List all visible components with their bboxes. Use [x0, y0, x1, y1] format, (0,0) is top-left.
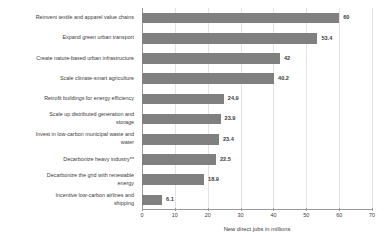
bar-row: 18.9: [142, 174, 372, 185]
x-tick-mark: [208, 208, 209, 211]
bar: [142, 53, 280, 64]
category-axis-labels: Reinvent textile and apparel value chain…: [0, 8, 138, 210]
gridline: [372, 8, 373, 210]
category-label: Decarbonize heavy industry**: [0, 149, 134, 169]
plot-area: 60 53.4 42 40.2 24.9 23.9: [142, 8, 372, 210]
bar-chart: Reinvent textile and apparel value chain…: [0, 0, 385, 242]
bar-row: 23.4: [142, 134, 372, 145]
bar-value-label: 23.4: [223, 137, 234, 143]
bar-row: 42: [142, 53, 372, 64]
bar: [142, 13, 339, 24]
category-label-text: Create nature-based urban infrastructure: [0, 55, 134, 63]
bar: [142, 114, 221, 125]
category-label-text: Decarbonize the grid with renewable ener…: [0, 172, 134, 188]
x-tick-label: 0: [141, 212, 144, 218]
x-tick-mark: [306, 208, 307, 211]
bar-row: 60: [142, 13, 372, 24]
x-tick-label: 60: [336, 212, 342, 218]
bar: [142, 94, 224, 105]
bar-row: 6.1: [142, 195, 372, 206]
bar-value-label: 22.5: [220, 157, 231, 163]
x-tick-mark: [273, 208, 274, 211]
bar-row: 22.5: [142, 154, 372, 165]
bar: [142, 174, 204, 185]
x-tick-label: 70: [369, 212, 375, 218]
bar-row: 40.2: [142, 73, 372, 84]
category-label: Expand green urban transport: [0, 28, 134, 48]
bar: [142, 33, 317, 44]
bar-value-label: 60: [343, 15, 349, 21]
bar-value-label: 6.1: [166, 197, 174, 203]
category-label: Retrofit buildings for energy efficiency: [0, 89, 134, 109]
bar: [142, 154, 216, 165]
category-label-text: Invest in low-carbon municipal waste and…: [0, 131, 134, 147]
category-label-text: Expand green urban transport: [0, 34, 134, 42]
x-tick-mark: [241, 208, 242, 211]
bar-value-label: 18.9: [208, 177, 219, 183]
category-label-text: Scale climate-smart agriculture: [0, 75, 134, 83]
bars-container: 60 53.4 42 40.2 24.9 23.9: [142, 8, 372, 210]
category-label-text: Retrofit buildings for energy efficiency: [0, 95, 134, 103]
category-label-text: Incentive low-carbon airlines and shippi…: [0, 192, 134, 208]
x-tick-label: 50: [303, 212, 309, 218]
bar-value-label: 24.9: [228, 96, 239, 102]
bar-value-label: 42: [284, 56, 290, 62]
bar-value-label: 53.4: [321, 36, 332, 42]
bar: [142, 134, 219, 145]
x-axis-title: New direct jobs in millions: [142, 226, 372, 232]
bar-value-label: 23.9: [225, 116, 236, 122]
bar-row: 24.9: [142, 94, 372, 105]
category-label: Invest in low-carbon municipal waste and…: [0, 129, 134, 149]
x-axis-ticks: 010203040506070: [142, 212, 372, 224]
category-label: Scale up distributed generation and stor…: [0, 109, 134, 129]
category-label: Decarbonize the grid with renewable ener…: [0, 170, 134, 190]
category-label: Scale climate-smart agriculture: [0, 69, 134, 89]
x-tick-label: 30: [238, 212, 244, 218]
x-tick-mark: [175, 208, 176, 211]
x-tick-label: 40: [270, 212, 276, 218]
bar: [142, 73, 274, 84]
x-tick-mark: [372, 208, 373, 211]
x-tick-mark: [142, 208, 143, 211]
x-tick-label: 20: [205, 212, 211, 218]
bar-row: 53.4: [142, 33, 372, 44]
category-label-text: Reinvent textile and apparel value chain…: [0, 14, 134, 22]
category-label-text: Scale up distributed generation and stor…: [0, 111, 134, 127]
category-label: Create nature-based urban infrastructure: [0, 48, 134, 68]
bar-row: 23.9: [142, 114, 372, 125]
category-label: Incentive low-carbon airlines and shippi…: [0, 190, 134, 210]
category-label-text: Decarbonize heavy industry**: [0, 156, 134, 164]
category-label: Reinvent textile and apparel value chain…: [0, 8, 134, 28]
bar-value-label: 40.2: [278, 76, 289, 82]
bar: [142, 195, 162, 206]
x-tick-label: 10: [172, 212, 178, 218]
x-tick-mark: [339, 208, 340, 211]
